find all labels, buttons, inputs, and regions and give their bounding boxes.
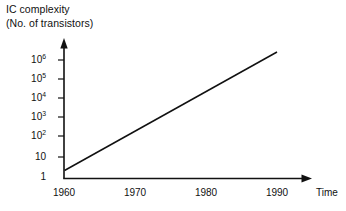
data-line-transistors xyxy=(65,52,278,171)
x-tick-label-1970: 1970 xyxy=(105,188,165,198)
y-tick-label-10: 10 xyxy=(10,152,46,162)
y-tick-label-1e3: 103 xyxy=(10,112,46,122)
x-axis-label: Time xyxy=(316,188,338,198)
y-tick-label-1e5: 105 xyxy=(10,74,46,84)
chart-plot-area xyxy=(0,0,346,211)
x-tick-label-1990: 1990 xyxy=(247,188,307,198)
y-tick-label-1e6: 106 xyxy=(10,55,46,65)
y-axis-arrowhead xyxy=(60,38,67,49)
x-axis-arrowhead xyxy=(302,175,313,183)
x-tick-label-1960: 1960 xyxy=(34,188,94,198)
ic-complexity-chart: IC complexity (No. of transistors) 106 1… xyxy=(0,0,346,211)
y-tick-label-1: 1 xyxy=(10,172,46,182)
y-axis-ticks xyxy=(58,60,64,157)
y-tick-label-1e4: 104 xyxy=(10,93,46,103)
y-tick-label-1e2: 102 xyxy=(10,131,46,141)
x-tick-label-1980: 1980 xyxy=(176,188,236,198)
